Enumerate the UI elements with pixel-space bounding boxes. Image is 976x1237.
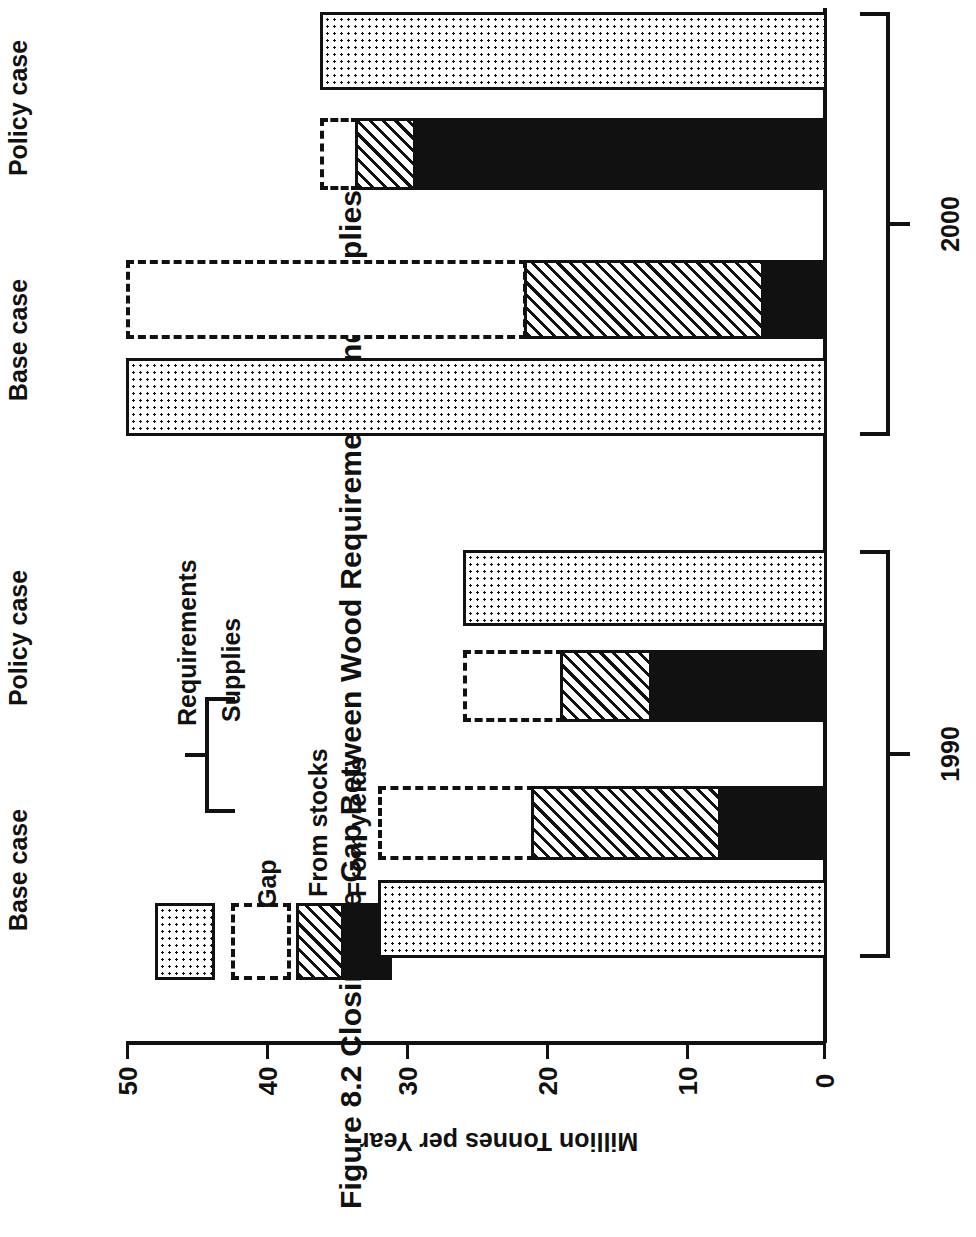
axis-tick-label-20: 20 (525, 1058, 571, 1104)
bar-gap-1990-policy (463, 650, 564, 722)
axis-tick-40 (266, 1041, 269, 1059)
bar-gap-2000-policy (320, 118, 359, 190)
axis-tick-label-10: 10 (665, 1058, 711, 1104)
bar-from-stocks-2000-base (524, 260, 764, 339)
axis-tick-10 (686, 1041, 689, 1059)
bar-from-stocks-1990-policy (560, 650, 652, 722)
axis-tick-label-0: 0 (802, 1058, 848, 1104)
legend-swatch-from-stocks (296, 903, 344, 980)
bar-from-yields-1990-base (718, 786, 827, 860)
axis-tick-20 (546, 1041, 549, 1059)
value-axis-line (126, 1041, 826, 1045)
case-label-2000-base: Base case (0, 220, 36, 460)
axis-tick-0 (823, 1041, 826, 1059)
case-label-1990-policy: Policy case (0, 518, 36, 758)
axis-tick-label-40: 40 (245, 1058, 291, 1104)
legend-label-gap: Gap (250, 798, 284, 908)
legend-label-supplies: Supplies (214, 552, 248, 722)
legend-label-from-stocks: From stocks (301, 687, 335, 897)
axis-tick-label-30: 30 (385, 1058, 431, 1104)
axis-tick-30 (406, 1041, 409, 1059)
axis-title: Million Tonnes per Year (309, 1122, 689, 1162)
axis-tick-50 (126, 1041, 129, 1059)
case-label-2000-policy: Policy case (0, 0, 36, 228)
group-year-label-1990: 1990 (932, 689, 968, 819)
supplies-bracket (205, 697, 209, 813)
bar-from-stocks-1990-base (531, 786, 721, 860)
bar-gap-1990-base (378, 786, 535, 860)
group-year-label-2000: 2000 (932, 159, 968, 289)
bar-from-stocks-2000-policy (355, 118, 416, 190)
bar-from-yields-1990-policy (651, 650, 827, 722)
group-bracket-2000 (886, 12, 890, 436)
legend-label-requirements: Requirements (170, 496, 204, 726)
legend-swatch-requirements (155, 903, 215, 980)
legend-swatch-gap (231, 903, 291, 980)
bar-requirements-1990-base (378, 880, 827, 958)
group-bracket-1990 (886, 550, 890, 958)
case-label-1990-base: Base case (0, 750, 36, 990)
bar-requirements-2000-base (126, 358, 827, 436)
legend-label-from-yields: From yields (340, 687, 374, 897)
bar-from-yields-2000-policy (415, 118, 827, 190)
bar-requirements-2000-policy (320, 12, 827, 90)
legend: Requirements Supplies Gap From stocks Fr… (0, 0, 360, 1000)
bar-from-yields-2000-base (761, 260, 827, 339)
bar-gap-2000-base (126, 260, 527, 339)
bar-requirements-1990-policy (463, 550, 827, 626)
axis-tick-label-50: 50 (105, 1058, 151, 1104)
